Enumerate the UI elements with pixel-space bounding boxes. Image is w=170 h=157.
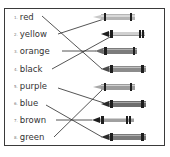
crayon-8-icon [101, 133, 148, 141]
line-yellow [58, 19, 104, 34]
line-green [54, 88, 104, 137]
crayon-7-icon [92, 116, 137, 124]
crayon-5-icon [93, 83, 138, 91]
crayon-1-icon [93, 13, 138, 21]
crayon-4-icon [101, 65, 148, 73]
crayon-6-icon [101, 100, 148, 108]
line-red [42, 16, 102, 69]
crayon-2-icon [101, 30, 148, 38]
crayon-3-icon [95, 47, 140, 55]
